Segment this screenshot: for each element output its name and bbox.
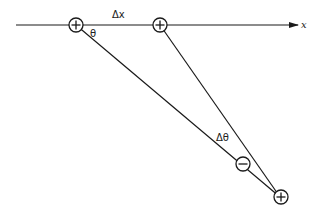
image-charge-plus [274, 190, 288, 204]
diagram: x Δx θ Δθ [0, 0, 312, 216]
delta-theta-label: Δθ [216, 132, 229, 143]
theta-label: θ [90, 28, 96, 39]
charge-right-plus [153, 18, 167, 32]
x-axis-label: x [301, 19, 307, 30]
image-charge-minus [236, 157, 250, 171]
charge-left-plus [69, 18, 83, 32]
delta-x-label: Δx [112, 9, 125, 20]
